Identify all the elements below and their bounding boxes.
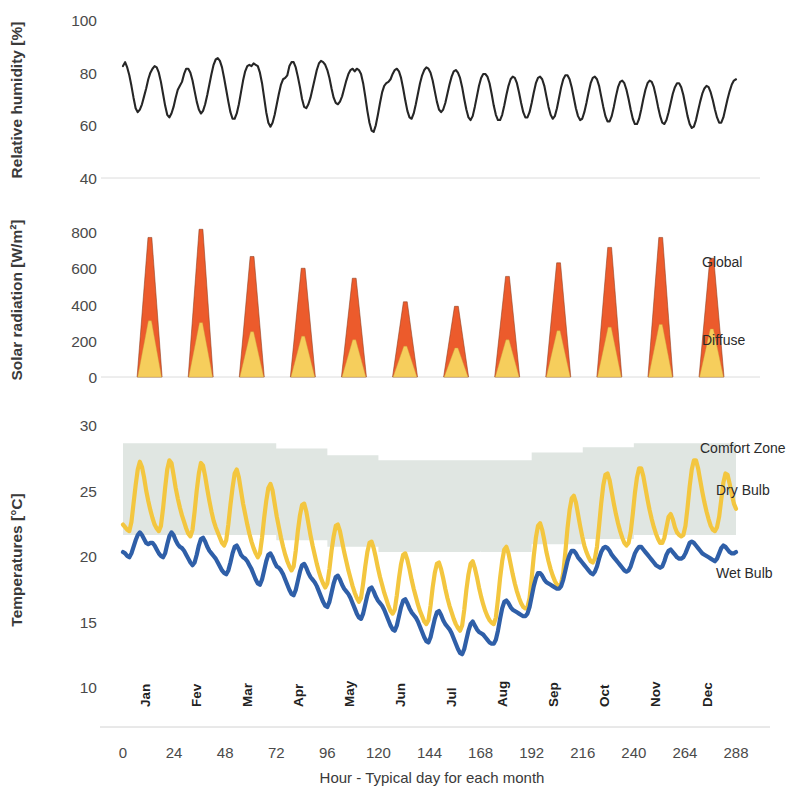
temperature-tick-15: 15 bbox=[80, 614, 97, 631]
hour-label-264: 264 bbox=[672, 744, 697, 761]
humidity-tick-80: 80 bbox=[80, 65, 98, 82]
hour-label-144: 144 bbox=[417, 744, 442, 761]
month-label-Jan: Jan bbox=[138, 684, 153, 707]
hour-label-0: 0 bbox=[119, 744, 127, 761]
temperature-tick-10: 10 bbox=[80, 679, 98, 696]
solar-axis-title: Solar radiation [W/m²] bbox=[8, 219, 25, 380]
hour-label-72: 72 bbox=[268, 744, 285, 761]
month-label-Apr: Apr bbox=[291, 683, 306, 707]
hour-label-24: 24 bbox=[166, 744, 183, 761]
hour-label-48: 48 bbox=[217, 744, 234, 761]
month-label-Jul: Jul bbox=[444, 687, 459, 707]
solar-tick-200: 200 bbox=[71, 333, 97, 350]
month-label-Nov: Nov bbox=[648, 681, 663, 707]
hour-label-96: 96 bbox=[319, 744, 336, 761]
temperature-tick-25: 25 bbox=[80, 483, 97, 500]
solar-tick-800: 800 bbox=[71, 224, 97, 241]
month-label-Jun: Jun bbox=[393, 683, 408, 707]
humidity-tick-100: 100 bbox=[71, 12, 97, 29]
hour-label-240: 240 bbox=[621, 744, 646, 761]
legend-label-comfort-zone: Comfort Zone bbox=[700, 440, 786, 456]
legend-label-diffuse: Diffuse bbox=[702, 332, 746, 348]
hour-label-120: 120 bbox=[366, 744, 391, 761]
legend-label-wet-bulb: Wet Bulb bbox=[716, 565, 773, 581]
legend-label-dry-bulb: Dry Bulb bbox=[716, 482, 770, 498]
hour-label-168: 168 bbox=[468, 744, 493, 761]
temperature-axis-title: Temperatures [°C] bbox=[8, 493, 25, 626]
month-label-May: May bbox=[342, 680, 357, 707]
month-label-Dec: Dec bbox=[700, 682, 715, 707]
figure-background bbox=[0, 0, 791, 789]
hour-label-288: 288 bbox=[723, 744, 748, 761]
solar-tick-400: 400 bbox=[71, 297, 97, 314]
month-label-Aug: Aug bbox=[495, 681, 510, 707]
temperature-tick-20: 20 bbox=[80, 548, 98, 565]
humidity-axis-title: Relative humidity [%] bbox=[8, 22, 25, 179]
hour-label-216: 216 bbox=[570, 744, 595, 761]
legend-label-global: Global bbox=[702, 254, 742, 270]
month-label-Sep: Sep bbox=[546, 682, 561, 707]
month-label-Mar: Mar bbox=[240, 682, 255, 707]
humidity-tick-40: 40 bbox=[80, 170, 98, 187]
hour-label-192: 192 bbox=[519, 744, 544, 761]
month-label-Oct: Oct bbox=[597, 684, 612, 707]
month-label-Fev: Fev bbox=[189, 683, 204, 707]
solar-tick-600: 600 bbox=[71, 260, 97, 277]
climate-chart-figure: 100806040 Relative humidity [%] 80060040… bbox=[0, 0, 791, 789]
x-axis-title: Hour - Typical day for each month bbox=[320, 769, 545, 786]
figure-svg: 100806040 Relative humidity [%] 80060040… bbox=[0, 0, 791, 789]
temperature-tick-30: 30 bbox=[80, 417, 98, 434]
solar-tick-0: 0 bbox=[88, 369, 97, 386]
humidity-tick-60: 60 bbox=[80, 117, 98, 134]
